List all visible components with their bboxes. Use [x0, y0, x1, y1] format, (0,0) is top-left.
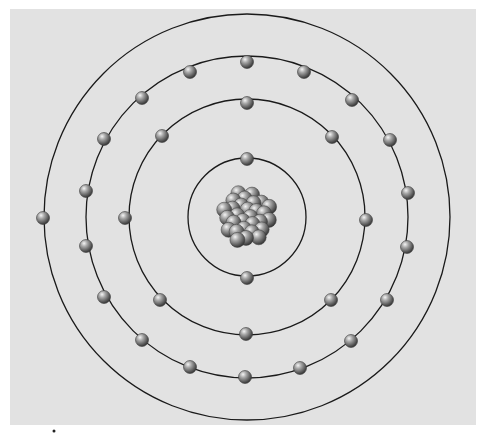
electron: [402, 187, 415, 200]
bottom-mark: [53, 430, 56, 433]
electron: [98, 133, 111, 146]
electron: [240, 328, 253, 341]
bohr-atom-diagram: [0, 0, 481, 433]
electron: [156, 130, 169, 143]
electron: [241, 56, 254, 69]
electron: [98, 291, 111, 304]
electron: [298, 66, 311, 79]
electron: [80, 185, 93, 198]
electron: [241, 272, 254, 285]
electron: [241, 153, 254, 166]
electron: [119, 212, 132, 225]
electron: [239, 371, 252, 384]
electron: [184, 66, 197, 79]
electron: [136, 92, 149, 105]
electron: [346, 94, 359, 107]
nucleon: [230, 232, 245, 247]
electron: [326, 131, 339, 144]
electron: [401, 241, 414, 254]
electron: [345, 335, 358, 348]
electron: [360, 214, 373, 227]
electron: [381, 294, 394, 307]
electron: [37, 212, 50, 225]
electron: [325, 294, 338, 307]
electron: [80, 240, 93, 253]
electron: [136, 334, 149, 347]
electron: [184, 361, 197, 374]
electron: [154, 294, 167, 307]
electron: [294, 362, 307, 375]
electron: [241, 97, 254, 110]
electron: [384, 134, 397, 147]
